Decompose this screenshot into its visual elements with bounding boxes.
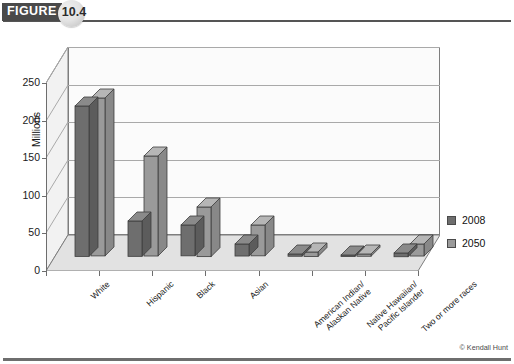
gridline-depth [46, 47, 70, 85]
figure-header: FIGURE 10.4 [0, 0, 514, 34]
legend-swatch-icon [447, 239, 456, 248]
x-axis-label: Two or more races [420, 279, 480, 334]
gridline [68, 47, 440, 48]
bar-2008-4 [288, 243, 313, 258]
x-axis-label: Hispanic [144, 279, 175, 308]
copyright-credit: © Kendall Hunt [460, 343, 508, 352]
figure-number-label: 10.4 [61, 4, 87, 20]
x-axis-label-line: Two or more races [420, 279, 480, 334]
x-tick-mark [46, 271, 47, 276]
x-tick-mark [99, 271, 100, 276]
chart-back-wall [68, 47, 440, 235]
bar-2008-5 [341, 244, 366, 259]
bar-2008-3 [235, 233, 260, 258]
x-tick-mark [259, 271, 260, 276]
figure-tag-label: FIGURE [2, 3, 62, 21]
bar-2008-2 [181, 214, 206, 258]
legend-item-2008[interactable]: 2008 [447, 214, 507, 226]
x-tick-mark [152, 271, 153, 276]
gridline [68, 197, 440, 198]
y-tick-label: 150 [4, 151, 40, 163]
gridline [68, 122, 440, 123]
x-tick-mark [312, 271, 313, 276]
legend-label: 2050 [462, 237, 485, 249]
chart-legend: 20082050 [447, 214, 507, 260]
y-tick-label: 0 [4, 264, 40, 276]
x-axis-label: American Indian/Alaskan Native [312, 279, 373, 337]
x-axis-label-line: White [88, 279, 111, 301]
bar-2008-6 [394, 242, 419, 259]
gridline-depth [46, 122, 70, 160]
legend-swatch-icon [447, 216, 456, 225]
x-axis-label-line: Asian [248, 279, 271, 301]
x-axis-label: Native Hawaiian/Pacific Islander [365, 279, 426, 337]
y-tick-label: 50 [4, 226, 40, 238]
legend-item-2050[interactable]: 2050 [447, 237, 507, 249]
bar-2008-1 [128, 210, 153, 258]
gridline-depth [46, 160, 70, 198]
x-axis-label-line: Hispanic [144, 279, 175, 308]
gridline-depth [46, 197, 70, 235]
y-axis-spine [46, 83, 47, 271]
x-axis-label: Black [194, 279, 216, 300]
x-axis-label-line: Black [194, 279, 216, 300]
y-axis-title: Millions [30, 112, 42, 147]
gridline [68, 160, 440, 161]
legend-label: 2008 [462, 214, 485, 226]
x-axis-label: White [88, 279, 111, 301]
chart-container: 050100150200250 Millions WhiteHispanicBl… [0, 34, 514, 364]
x-axis-label: Asian [248, 279, 271, 301]
bar-2008-0 [75, 95, 100, 258]
x-tick-mark [418, 271, 419, 276]
gridline [68, 85, 440, 86]
plot-area: 050100150200250 Millions [46, 47, 440, 271]
bottom-rule [3, 358, 511, 361]
x-tick-mark [365, 271, 366, 276]
y-tick-label: 250 [4, 76, 40, 88]
y-tick-label: 100 [4, 189, 40, 201]
x-tick-mark [205, 271, 206, 276]
gridline-depth [46, 85, 70, 123]
